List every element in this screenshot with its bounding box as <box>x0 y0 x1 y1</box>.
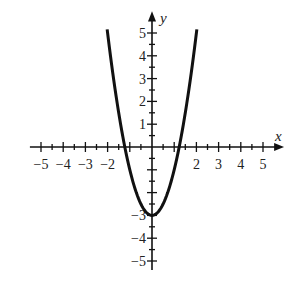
y-tick-label: 4 <box>139 49 146 64</box>
x-tick-label: −3 <box>78 157 93 172</box>
y-axis-label: y <box>158 10 167 26</box>
axes <box>30 11 284 270</box>
x-tick-label: 3 <box>215 157 222 172</box>
y-tick-label: −4 <box>131 231 146 246</box>
y-tick-label: 3 <box>139 72 146 87</box>
x-axis-label: x <box>274 128 282 144</box>
x-tick-label: 4 <box>237 157 244 172</box>
parabola-chart: −5−4−3−2234554321−3−4−5 x y <box>0 0 298 293</box>
y-tick-label: −5 <box>131 254 146 269</box>
x-tick-label: 2 <box>193 157 200 172</box>
y-tick-label: 5 <box>139 26 146 41</box>
x-tick-label: 5 <box>260 157 267 172</box>
x-tick-label: −2 <box>100 157 115 172</box>
x-tick-label: −5 <box>34 157 49 172</box>
y-tick-label: 2 <box>139 94 146 109</box>
x-tick-label: −4 <box>56 157 71 172</box>
y-tick-label: 1 <box>139 117 146 132</box>
